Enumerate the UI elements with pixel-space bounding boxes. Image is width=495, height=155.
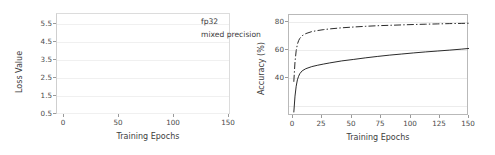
loss-ytick-5-5: 5.5 <box>26 20 52 27</box>
tickmark-y <box>53 59 56 60</box>
loss-xtick-0: 0 <box>51 119 75 126</box>
tickmark-x <box>118 114 119 117</box>
loss-xaxis-title: Training Epochs <box>93 133 203 141</box>
tickmark-y <box>53 113 56 114</box>
acc-xtick-150: 150 <box>457 120 479 127</box>
acc-xtick-125: 125 <box>428 120 450 127</box>
tickmark-y <box>53 95 56 96</box>
loss-ytick-0-5: 0.5 <box>26 110 52 117</box>
tickmark-x <box>63 114 64 117</box>
gridline <box>57 113 229 114</box>
tickmark-y <box>53 41 56 42</box>
loss-xtick-150: 150 <box>216 119 240 126</box>
tickmark-x <box>351 115 352 118</box>
loss-yaxis-title: Loss Value <box>16 51 24 93</box>
loss-xtick-100: 100 <box>161 119 185 126</box>
tickmark-y <box>285 49 288 50</box>
accuracy-panel: 80 60 40 0 25 50 75 100 125 150 Training… <box>248 0 495 155</box>
acc-xtick-50: 50 <box>340 120 362 127</box>
accuracy-curves <box>289 15 469 116</box>
loss-panel: 5.5 4.5 3.5 2.5 1.5 0.5 0 50 100 150 Tra… <box>0 0 248 155</box>
tickmark-x <box>292 115 293 118</box>
loss-ytick-2-5: 2.5 <box>26 74 52 81</box>
curve-top1-acc <box>294 48 469 112</box>
tickmark-y <box>53 77 56 78</box>
accuracy-plot-area <box>288 14 468 115</box>
acc-xtick-25: 25 <box>310 120 332 127</box>
tickmark-x <box>410 115 411 118</box>
acc-xtick-0: 0 <box>281 120 303 127</box>
gridline <box>57 42 229 43</box>
curve-top5-acc <box>294 23 469 82</box>
gridline <box>57 78 229 79</box>
tickmark-x <box>321 115 322 118</box>
gridline <box>57 60 229 61</box>
tickmark-x <box>468 115 469 118</box>
tickmark-y <box>285 77 288 78</box>
tickmark-y <box>285 21 288 22</box>
tickmark-y <box>53 23 56 24</box>
tickmark-x <box>439 115 440 118</box>
tickmark-x <box>380 115 381 118</box>
loss-ytick-4-5: 4.5 <box>26 38 52 45</box>
loss-ytick-3-5: 3.5 <box>26 56 52 63</box>
acc-ytick-80: 80 <box>262 18 284 25</box>
gridline <box>57 96 229 97</box>
figure: 5.5 4.5 3.5 2.5 1.5 0.5 0 50 100 150 Tra… <box>0 0 495 155</box>
acc-xtick-75: 75 <box>369 120 391 127</box>
legend-label: fp32 <box>201 18 218 26</box>
acc-xaxis-title: Training Epochs <box>323 134 433 142</box>
tickmark-x <box>173 114 174 117</box>
acc-yaxis-title: Accuracy (%) <box>258 42 266 95</box>
loss-xtick-50: 50 <box>106 119 130 126</box>
loss-ytick-1-5: 1.5 <box>26 92 52 99</box>
acc-xtick-100: 100 <box>399 120 421 127</box>
tickmark-x <box>228 114 229 117</box>
